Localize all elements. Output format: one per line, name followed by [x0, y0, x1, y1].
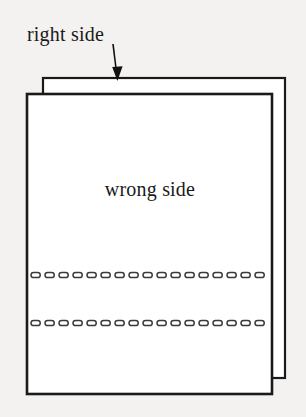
- stitch-dash: [185, 320, 194, 325]
- label-wrong-side: wrong side: [0, 178, 300, 200]
- stitch-dash: [227, 320, 236, 325]
- stitch-dash: [199, 320, 208, 325]
- stitch-dash: [143, 320, 152, 325]
- stitch-dash: [185, 272, 194, 277]
- stitch-dash: [115, 320, 124, 325]
- stitch-dash: [199, 272, 208, 277]
- stitch-dash: [59, 272, 68, 277]
- stitch-dash: [87, 272, 96, 277]
- label-right-side: right side: [27, 23, 104, 45]
- stitch-dash: [31, 320, 40, 325]
- stitch-line-upper: [31, 272, 264, 277]
- stitch-line-lower: [31, 320, 264, 325]
- stitch-dash: [157, 272, 166, 277]
- stitch-dash: [101, 272, 110, 277]
- stitch-dash: [31, 272, 40, 277]
- stitch-dash: [73, 320, 82, 325]
- stitch-dash: [115, 272, 124, 277]
- stitch-dash: [129, 272, 138, 277]
- stitch-dash: [255, 272, 264, 277]
- diagram-canvas: [0, 0, 306, 417]
- stitch-dash: [213, 320, 222, 325]
- stitch-dash: [143, 272, 152, 277]
- stitch-dash: [45, 272, 54, 277]
- stitch-dash: [157, 320, 166, 325]
- stitch-dash: [59, 320, 68, 325]
- stitch-dash: [255, 320, 264, 325]
- stitch-dash: [45, 320, 54, 325]
- stitch-dash: [87, 320, 96, 325]
- stitch-dash: [73, 272, 82, 277]
- wrong-side-fabric-layer: [27, 94, 272, 394]
- stitch-dash: [101, 320, 110, 325]
- stitch-dash: [227, 272, 236, 277]
- pointer-arrow: [112, 44, 122, 81]
- stitch-dash: [171, 272, 180, 277]
- stitch-dash: [129, 320, 138, 325]
- fabric-folding-diagram: right side wrong side: [0, 0, 306, 417]
- stitch-dash: [171, 320, 180, 325]
- stitch-dash: [213, 272, 222, 277]
- stitch-dash: [241, 320, 250, 325]
- stitch-dash: [241, 272, 250, 277]
